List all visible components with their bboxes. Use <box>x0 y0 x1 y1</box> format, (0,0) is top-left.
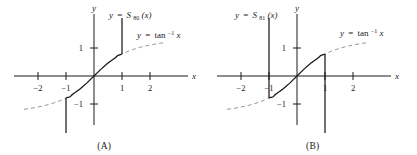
reference-label-equals: = <box>145 30 150 40</box>
series-label: y = S 81 (x) <box>234 10 278 22</box>
x-tick-label-1: 1 <box>322 83 326 93</box>
panel-a-plot: −2 −1 1 2 1 −1 x y y = S 80 (x) y = tan <box>0 0 208 140</box>
y-tick-label--1: −1 <box>74 99 83 109</box>
x-axis-label: x <box>191 71 196 81</box>
panel-a-caption: (A) <box>0 141 209 151</box>
series-label-fn: S <box>252 10 257 20</box>
series-label-arg: (x) <box>142 10 152 20</box>
reference-label-fn: tan <box>155 30 166 40</box>
series-label: y = S 80 (x) <box>108 10 152 22</box>
panel-a: −2 −1 1 2 1 −1 x y y = S 80 (x) y = tan <box>0 0 209 155</box>
reference-label: y = tan −1 x <box>136 27 180 40</box>
panel-b: −2 −1 1 2 1 −1 x y y = S 81 (x) y = tan <box>209 0 417 155</box>
series-label-arg: (x) <box>267 10 277 20</box>
series-label-prefix: y <box>234 10 239 20</box>
reference-label-arg: x <box>378 28 383 38</box>
x-tick-label-2: 2 <box>350 83 354 93</box>
y-tick-label--1: −1 <box>276 99 285 109</box>
x-tick-label-1: 1 <box>120 83 124 93</box>
series-label-subscript: 80 <box>133 15 139 21</box>
x-tick-label--2: −2 <box>236 83 245 93</box>
y-axis-label: y <box>294 3 299 13</box>
y-tick-label-1: 1 <box>79 43 83 53</box>
x-tick-label--2: −2 <box>33 83 42 93</box>
reference-label-exponent: −1 <box>168 30 174 36</box>
reference-label: y = tan −1 x <box>339 25 383 38</box>
series-label-equals: = <box>117 10 122 20</box>
panel-b-caption: (B) <box>209 141 417 151</box>
reference-label-arg: x <box>175 30 180 40</box>
series-label-subscript: 81 <box>259 15 265 21</box>
reference-label-equals: = <box>348 28 353 38</box>
figure-container: −2 −1 1 2 1 −1 x y y = S 80 (x) y = tan <box>0 0 417 155</box>
reference-label-fn: tan <box>357 28 368 38</box>
x-axis-label: x <box>394 71 399 81</box>
series-label-prefix: y <box>108 10 113 20</box>
series-label-fn: S <box>127 10 132 20</box>
y-axis-label: y <box>91 3 96 13</box>
reference-label-prefix: y <box>339 28 344 38</box>
x-tick-label--1: −1 <box>264 83 273 93</box>
series-label-equals: = <box>243 10 248 20</box>
reference-label-prefix: y <box>136 30 141 40</box>
x-tick-label--1: −1 <box>61 83 70 93</box>
panel-b-plot: −2 −1 1 2 1 −1 x y y = S 81 (x) y = tan <box>209 0 417 140</box>
reference-label-exponent: −1 <box>370 28 376 34</box>
x-tick-label-2: 2 <box>148 83 152 93</box>
y-tick-label-1: 1 <box>281 43 285 53</box>
